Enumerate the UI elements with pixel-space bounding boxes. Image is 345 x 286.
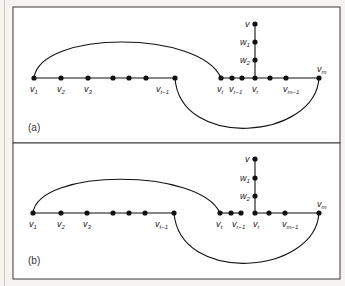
node-w1: [252, 39, 257, 44]
node: [110, 210, 115, 215]
node-vr-1: [228, 210, 233, 215]
node-vm-1: [283, 75, 288, 80]
node-v2: [58, 210, 63, 215]
node-vm: [316, 75, 321, 80]
svg-text:v: v: [245, 154, 250, 164]
node-w2: [252, 57, 257, 62]
node-vr-1: [229, 75, 234, 80]
panel-a-frame: [13, 7, 340, 143]
node: [110, 75, 115, 80]
node-vt-1: [172, 75, 177, 80]
node: [126, 75, 131, 80]
node: [142, 210, 147, 215]
node-vm-1: [282, 210, 287, 215]
node-vm: [316, 210, 321, 215]
node-vr: [252, 210, 257, 215]
node-v: [252, 21, 257, 26]
node: [266, 210, 271, 215]
node-vt: [218, 75, 223, 80]
node: [239, 75, 244, 80]
node: [126, 210, 131, 215]
node-w1: [252, 175, 257, 180]
node-v3: [85, 75, 90, 80]
node-v1: [31, 75, 36, 80]
node-vr: [252, 75, 257, 80]
node-w2: [252, 193, 257, 198]
node-v1: [30, 210, 35, 215]
node-v: [252, 156, 257, 161]
node-vt-1: [171, 210, 176, 215]
node: [238, 210, 243, 215]
panel-a-label: (a): [28, 122, 40, 133]
node-v2: [58, 75, 63, 80]
node: [143, 75, 148, 80]
node-v3: [84, 210, 89, 215]
panel-b-label: (b): [28, 255, 40, 266]
node: [267, 75, 272, 80]
svg-text:v: v: [245, 19, 250, 29]
node-vt: [217, 210, 222, 215]
graph-figure: v1 v2 v3 vt−1 vt vr−1 vr vm−1 vm v w1 w2…: [0, 0, 345, 286]
